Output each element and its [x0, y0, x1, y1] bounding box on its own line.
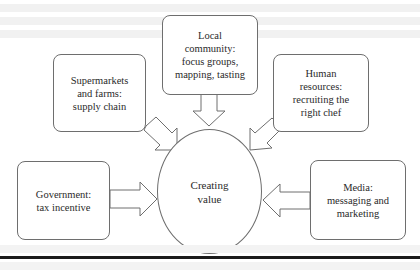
node-label: Local community: focus groups, mapping, …: [175, 29, 245, 81]
node-label: Human resources: recruiting the right ch…: [293, 67, 349, 119]
node-label: Government: tax incentive: [36, 188, 91, 214]
node-label: Supermarkets and farms: supply chain: [71, 74, 129, 113]
arrow-supermarkets: [144, 117, 177, 150]
node-government: Government: tax incentive: [17, 161, 110, 240]
arrow-media: [263, 184, 310, 217]
center-node-creating-value: Creating value: [157, 129, 262, 254]
node-human-resources: Human resources: recruiting the right ch…: [273, 54, 369, 132]
node-media: Media: messaging and marketing: [310, 160, 406, 240]
bottom-rule: [0, 256, 420, 259]
background-text-line: [0, 245, 420, 253]
node-local-community: Local community: focus groups, mapping, …: [162, 15, 258, 95]
arrow-government: [110, 182, 157, 216]
center-label: Creating value: [191, 178, 229, 206]
node-supermarkets-farms: Supermarkets and farms: supply chain: [53, 54, 146, 132]
node-label: Media: messaging and marketing: [327, 181, 389, 220]
arrow-local-community: [193, 93, 225, 126]
background-text-line: [0, 262, 420, 270]
